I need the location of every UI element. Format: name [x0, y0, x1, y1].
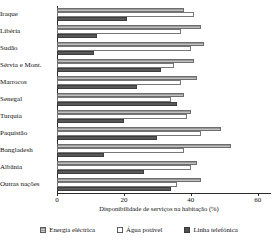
bar-linha-telef-nica-sud-o — [57, 51, 94, 55]
x-tick-label-40: 40 — [181, 196, 201, 205]
white-swatch — [117, 227, 123, 233]
category-label-marrocos: Marrocos — [0, 78, 54, 86]
bar-linha-telef-nica-outras-na-es — [57, 187, 171, 191]
bar-energia-el-ctrica-outras-na-es — [57, 178, 201, 182]
bar--gua-pot-vel-turquia — [57, 114, 187, 118]
category-label-paquist-o: Paquistão — [0, 129, 54, 137]
bar--gua-pot-vel-paquist-o — [57, 131, 201, 135]
bar--gua-pot-vel-alb-nia — [57, 165, 191, 169]
bar--gua-pot-vel-marrocos — [57, 80, 181, 84]
bar-energia-el-ctrica-senegal — [57, 93, 184, 97]
bar-energia-el-ctrica-alb-nia — [57, 161, 197, 165]
bar-energia-el-ctrica-marrocos — [57, 76, 197, 80]
bar-energia-el-ctrica-turquia — [57, 110, 191, 114]
bar-linha-telef-nica-s-rvia-e-mont- — [57, 68, 161, 72]
bar--gua-pot-vel-sud-o — [57, 46, 191, 50]
bar-linha-telef-nica-lib-ria — [57, 34, 97, 38]
bar-energia-el-ctrica-lib-ria — [57, 25, 201, 29]
category-label-alb-nia: Albânia — [0, 163, 54, 171]
bar-linha-telef-nica-marrocos — [57, 85, 137, 89]
bar--gua-pot-vel-lib-ria — [57, 29, 181, 33]
x-tick-label-20: 20 — [114, 196, 134, 205]
legend-entry-linha-telef-nica: Linha telefónica — [184, 226, 237, 234]
bar--gua-pot-vel-iraque — [57, 12, 194, 16]
category-label-senegal: Senegal — [0, 95, 54, 103]
bar-linha-telef-nica-turquia — [57, 119, 124, 123]
category-label-sud-o: Sudão — [0, 44, 54, 52]
bar-linha-telef-nica-senegal — [57, 102, 177, 106]
bar-linha-telef-nica-iraque — [57, 17, 127, 21]
category-label-iraque: Iraque — [0, 10, 54, 18]
category-label-lib-ria: Libéria — [0, 27, 54, 35]
bar--gua-pot-vel-senegal — [57, 97, 171, 101]
legend-label: Linha telefónica — [193, 226, 237, 234]
chart-legend: Energia eléctricaÁgua potávelLinha telef… — [10, 223, 268, 237]
value-axis-line — [57, 193, 271, 194]
bar--gua-pot-vel-outras-na-es — [57, 182, 177, 186]
bar--gua-pot-vel-bangladesh — [57, 148, 184, 152]
bar--gua-pot-vel-s-rvia-e-mont- — [57, 63, 174, 67]
bar-energia-el-ctrica-s-rvia-e-mont- — [57, 59, 194, 63]
bar-energia-el-ctrica-iraque — [57, 8, 184, 12]
bar-energia-el-ctrica-sud-o — [57, 42, 204, 46]
bar-linha-telef-nica-alb-nia — [57, 170, 144, 174]
bar-linha-telef-nica-bangladesh — [57, 153, 104, 157]
category-label-outras-na-es: Outras nações — [0, 180, 54, 188]
x-tick-label-60: 60 — [248, 196, 268, 205]
bar-energia-el-ctrica-paquist-o — [57, 127, 221, 131]
x-axis-title: Disponibilidade de serviços na habitação… — [40, 205, 278, 213]
category-label-s-rvia-e-mont-: Sérvia e Mont. — [0, 61, 54, 69]
horizontal-bar-chart: IraqueLibériaSudãoSérvia e Mont.Marrocos… — [0, 0, 278, 244]
bar-linha-telef-nica-paquist-o — [57, 136, 157, 140]
x-tick-label-0: 0 — [47, 196, 67, 205]
bar-energia-el-ctrica-bangladesh — [57, 144, 231, 148]
dark-grey-swatch — [184, 227, 190, 233]
legend-label: Energia eléctrica — [49, 226, 95, 234]
legend-label: Água potável — [126, 226, 162, 234]
category-label-bangladesh: Bangladesh — [0, 146, 54, 154]
legend-entry--gua-pot-vel: Água potável — [117, 226, 162, 234]
hatched-grey-swatch — [40, 227, 46, 233]
legend-entry-energia-el-ctrica: Energia eléctrica — [40, 226, 95, 234]
category-label-turquia: Turquia — [0, 112, 54, 120]
